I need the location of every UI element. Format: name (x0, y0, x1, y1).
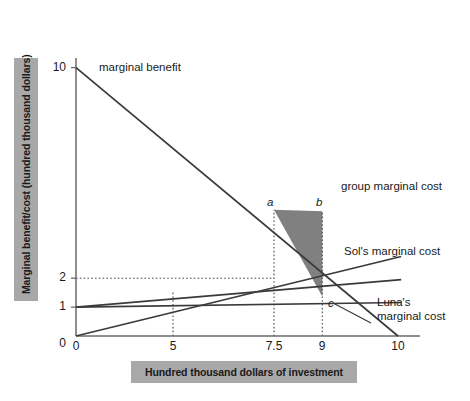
chart-figure: Marginal benefit/cost (hundred thousand … (0, 0, 470, 401)
x-tick-label-5: 5 (163, 339, 183, 353)
point-label-a: a (267, 196, 273, 208)
label-lunas-marginal-cost: Luna's marginal cost (377, 296, 455, 323)
point-label-b: b (316, 196, 322, 208)
label-group-marginal-cost: group marginal cost (341, 180, 442, 192)
y-tick-label-0: 0 (38, 336, 66, 350)
y-tick-label-1: 1 (38, 299, 66, 313)
label-sols-marginal-cost: Sol's marginal cost (344, 245, 440, 257)
x-tick-label-0: 0 (66, 339, 86, 353)
x-tick-label-10: 10 (388, 339, 408, 353)
x-tick-label-9: 9 (312, 339, 332, 353)
y-tick-label-10: 10 (38, 60, 66, 74)
curve-group-marginal-cost (76, 257, 401, 337)
point-label-c: c (328, 297, 334, 309)
label-marginal-benefit: marginal benefit (99, 61, 181, 73)
y-tick-label-2: 2 (38, 270, 66, 284)
x-tick-label-7-5: 7.5 (261, 339, 287, 353)
leader-line-lunas (333, 303, 371, 323)
curve-marginal-benefit (76, 68, 398, 336)
